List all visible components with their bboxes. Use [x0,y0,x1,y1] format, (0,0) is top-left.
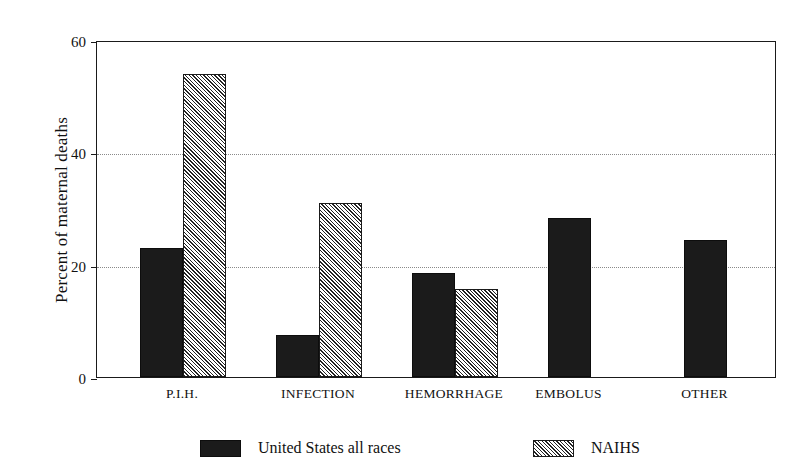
bar-p-i-h-united-states-all-races [140,248,183,377]
plot-area: 0204060 [96,41,776,378]
y-axis-title: Percent of maternal deaths [52,50,72,370]
bar-hemorrhage-naihs [455,289,498,377]
x-axis-label-other: OTHER [681,386,728,402]
legend-label: United States all races [258,439,401,457]
bar-infection-united-states-all-races [276,335,319,377]
chart-legend: United States all racesNAIHS [0,437,805,465]
y-tick-label-20: 20 [26,258,97,275]
bar-chart-figure: Percent of maternal deaths 0204060 P.I.H… [0,0,805,475]
x-axis-label-infection: INFECTION [281,386,355,402]
y-tick-label-60: 60 [26,34,97,51]
bar-hemorrhage-united-states-all-races [412,273,455,377]
y-tick-label-40: 40 [26,146,97,163]
legend-swatch-hatch [533,440,574,457]
x-axis-label-embolus: EMBOLUS [535,386,602,402]
x-axis-label-hemorrhage: HEMORRHAGE [405,386,503,402]
bar-p-i-h-naihs [183,74,226,377]
bar-other-united-states-all-races [684,240,727,377]
x-axis-label-p-i-h: P.I.H. [166,386,198,402]
bar-embolus-united-states-all-races [548,218,591,377]
y-tick-label-0: 0 [26,371,97,388]
legend-entry-united-states-all-races: United States all races [200,437,401,459]
legend-swatch-solid [200,440,241,457]
legend-entry-naihs: NAIHS [533,437,640,459]
bar-infection-naihs [319,203,362,377]
legend-label: NAIHS [591,439,640,457]
